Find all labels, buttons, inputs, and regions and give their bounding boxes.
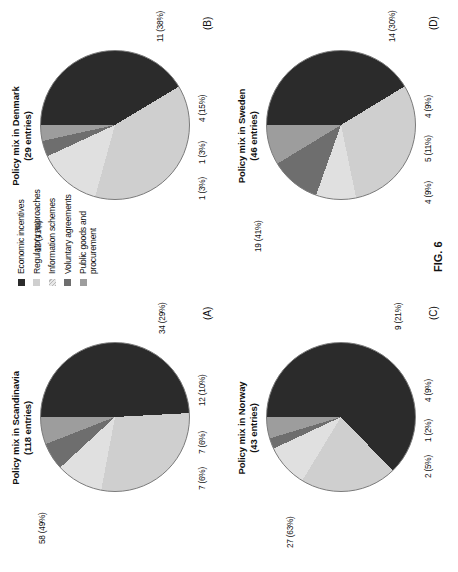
panel-norway: Policy mix in Norway (43 entries) 27 (63… (232, 298, 454, 566)
pie-chart-scandinavia (40, 342, 190, 492)
panel-title-denmark: Policy mix in Denmark (29 entries) (10, 46, 33, 226)
slice-label-sweden-information-schemes: 4 (9%) (424, 95, 433, 118)
pie-chart-denmark (40, 50, 190, 200)
panel-letter-c: (C) (428, 306, 439, 320)
slice-label-sweden-regulatory-approaches: 14 (30%) (388, 10, 397, 42)
slice-label-denmark-information-schemes: 4 (15%) (198, 95, 207, 122)
slice-label-norway-voluntary-agreements: 1 (2%) (424, 419, 433, 442)
panel-title-norway: Policy mix in Norway (43 entries) (236, 338, 259, 518)
figure-caption: FIG. 6 (432, 241, 444, 272)
pie-chart-norway (266, 342, 416, 492)
figure-root: Policy mix in Scandinavia (118 entries) … (0, 0, 458, 572)
panel-letter-a: (A) (202, 307, 213, 320)
panel-letter-d: (D) (428, 16, 439, 30)
slice-label-sweden-public-goods: 4 (9%) (424, 181, 433, 204)
slice-label-denmark-voluntary-agreements: 1 (3%) (198, 141, 207, 164)
panel-letter-b: (B) (202, 17, 213, 30)
slice-label-scandinavia-voluntary-agreements: 7 (6%) (198, 431, 207, 454)
panel-scandinavia: Policy mix in Scandinavia (118 entries) … (6, 298, 228, 566)
slice-label-denmark-regulatory-approaches: 11 (38%) (156, 11, 165, 42)
slice-label-denmark-economic-incentives: 12 (41%) (34, 220, 43, 252)
slice-label-norway-public-goods: 2 (5%) (424, 455, 433, 478)
slice-label-norway-information-schemes: 4 (9%) (424, 379, 433, 402)
slice-label-scandinavia-information-schemes: 12 (10%) (198, 374, 207, 406)
slice-label-scandinavia-economic-incentives: 58 (49%) (38, 512, 47, 544)
slice-label-scandinavia-public-goods: 7 (6%) (198, 467, 207, 490)
slice-label-norway-regulatory-approaches: 9 (21%) (394, 303, 403, 330)
panel-title-scandinavia: Policy mix in Scandinavia (118 entries) (10, 338, 33, 518)
slice-label-sweden-voluntary-agreements: 5 (11%) (424, 135, 433, 162)
slice-label-scandinavia-regulatory-approaches: 34 (29%) (158, 302, 167, 334)
panel-denmark: Policy mix in Denmark (29 entries) 12 (4… (6, 6, 228, 282)
slice-label-sweden-economic-incentives: 19 (41%) (254, 220, 263, 252)
slice-label-norway-economic-incentives: 27 (63%) (286, 516, 295, 548)
panel-sweden: Policy mix in Sweden (46 entries) 19 (41… (232, 6, 454, 282)
panel-title-sweden: Policy mix in Sweden (46 entries) (236, 46, 259, 226)
pie-chart-sweden (266, 50, 416, 200)
slice-label-denmark-public-goods: 1 (3%) (198, 177, 207, 200)
